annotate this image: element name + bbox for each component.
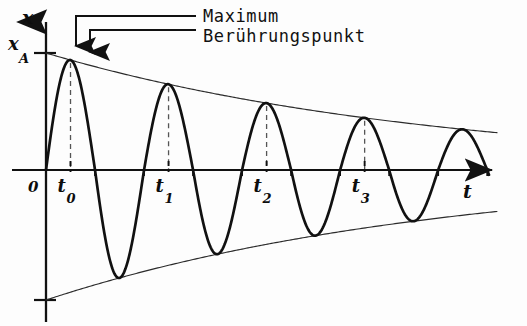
x-axis-label: t [463, 180, 472, 202]
axes-group [12, 22, 492, 322]
beruehrungspunkt-leader-line [90, 30, 196, 52]
lower-envelope-curve [46, 211, 497, 300]
tick-label-sub-t0: 0 [67, 191, 76, 206]
tick-label-base-t3: t [352, 175, 361, 196]
damped-oscillation-figure: Maximum Berührungspunkt x t 0 x A t0t1t2… [0, 0, 527, 326]
upper-envelope-curve [46, 53, 497, 133]
tick-label-base-t2: t [254, 175, 263, 196]
amplitude-label-base: x [7, 33, 19, 54]
annotation-maximum-label: Maximum [203, 6, 279, 26]
tick-label-sub-t2: 2 [262, 191, 272, 206]
tick-label-base-t1: t [156, 175, 165, 196]
annotation-beruehrungspunkt-label: Berührungspunkt [203, 26, 366, 46]
amplitude-label-subscript: A [17, 51, 29, 66]
chart-svg: Maximum Berührungspunkt x t 0 x A t0t1t2… [0, 0, 527, 326]
origin-label: 0 [28, 178, 39, 196]
tick-label-sub-t3: 3 [361, 191, 370, 206]
tick-label-sub-t1: 1 [165, 191, 174, 206]
time-tick-labels: t0t1t2t3 [58, 175, 370, 206]
y-axis-label: x [21, 6, 34, 28]
maxima-drop-lines [71, 63, 365, 172]
callout-leaders [76, 16, 196, 52]
tick-label-base-t0: t [58, 175, 67, 196]
